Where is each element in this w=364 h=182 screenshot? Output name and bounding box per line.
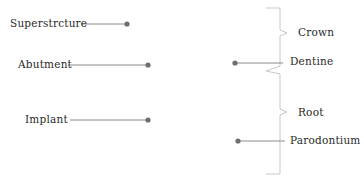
superstructure-label: Superstrcture xyxy=(10,18,87,29)
abutment-leader xyxy=(68,62,151,67)
parodontium-pointer xyxy=(235,138,285,143)
dental-implant-diagram: Superstrcture Abutment Implant Crown Den… xyxy=(0,0,364,182)
tooth-bracket xyxy=(266,8,287,174)
implant-label: Implant xyxy=(25,114,68,125)
abutment-dot-icon xyxy=(145,62,150,67)
parodontium-dot-icon xyxy=(235,138,240,143)
superstructure-leader xyxy=(81,21,130,26)
superstructure-dot-icon xyxy=(124,21,129,26)
dentine-label: Dentine xyxy=(290,56,333,67)
implant-dot-icon xyxy=(145,117,150,122)
dentine-dot-icon xyxy=(232,60,237,65)
root-label: Root xyxy=(298,107,324,118)
abutment-label: Abutment xyxy=(18,59,72,70)
crown-label: Crown xyxy=(298,27,334,38)
implant-leader xyxy=(70,117,151,122)
parodontium-label: Parodontium xyxy=(290,135,361,146)
dentine-pointer xyxy=(232,60,283,65)
